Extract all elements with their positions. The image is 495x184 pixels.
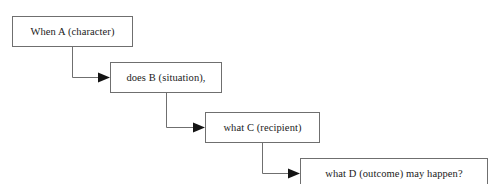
flowchart-canvas: When A (character) does B (situation), w… — [0, 0, 495, 184]
flow-node-when-a[interactable]: When A (character) — [12, 16, 133, 47]
flow-node-label: When A (character) — [21, 26, 123, 38]
flow-node-does-b[interactable]: does B (situation), — [110, 62, 222, 93]
flow-node-label: what C (recipient) — [214, 122, 310, 134]
connector-line — [263, 143, 290, 174]
arrowhead-icon — [288, 169, 300, 179]
flow-node-what-d[interactable]: what D (outcome) may happen? — [300, 158, 488, 184]
flow-node-what-c[interactable]: what C (recipient) — [205, 112, 320, 143]
flow-node-label: does B (situation), — [117, 72, 214, 84]
flow-node-label: what D (outcome) may happen? — [316, 168, 472, 180]
